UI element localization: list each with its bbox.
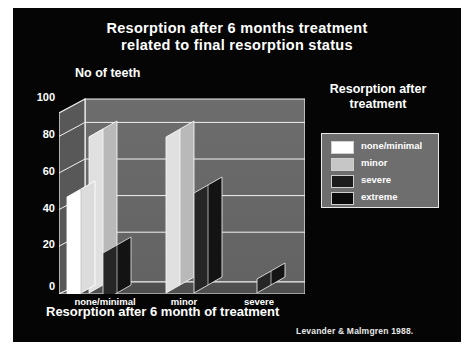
legend-swatch-extreme: [331, 192, 354, 205]
legend-title-line1: Resorption after: [330, 82, 427, 96]
chart-svg: [59, 86, 305, 294]
x-axis-title: Resorption after 6 month of treatment: [46, 304, 279, 319]
legend-label-extreme: extreme: [361, 191, 397, 202]
legend-title: Resorption after treatment: [308, 82, 448, 112]
legend-swatch-minor: [331, 158, 354, 171]
slide-canvas: Resorption after 6 months treatment rela…: [13, 8, 461, 342]
chart-title-line1: Resorption after 6 months treatment: [13, 20, 461, 36]
y-axis-title: No of teeth: [75, 66, 140, 80]
y-tick-80: 80: [27, 128, 55, 140]
legend-label-none-minimal: none/minimal: [361, 140, 422, 151]
y-tick-0: 0: [27, 280, 55, 292]
y-tick-20: 20: [27, 238, 55, 250]
bar-g1-none-minimal: [67, 181, 95, 294]
legend-label-minor: minor: [361, 157, 387, 168]
slide: Resorption after 6 months treatment rela…: [0, 0, 471, 350]
bar-g2-severe: [194, 177, 222, 293]
legend-label-severe: severe: [361, 174, 391, 185]
y-tick-100: 100: [27, 91, 55, 103]
chart-title-line2: related to final resorption status: [13, 37, 461, 53]
y-tick-60: 60: [27, 165, 55, 177]
bar-chart-3d: 100 80 60 40 20 0 none/minimal minor sev…: [59, 86, 305, 294]
legend: none/minimal minor severe extreme: [321, 133, 439, 208]
bar-g2-minor: [166, 121, 194, 293]
y-tick-40: 40: [27, 202, 55, 214]
legend-title-line2: treatment: [350, 97, 407, 111]
legend-swatch-severe: [331, 175, 354, 188]
source-credit: Levander & Malmgren 1988.: [296, 326, 413, 336]
legend-swatch-none-minimal: [331, 141, 354, 154]
